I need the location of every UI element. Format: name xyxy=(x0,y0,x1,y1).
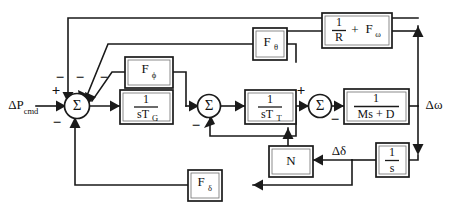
block-f-delta-box xyxy=(188,170,222,201)
summing-junction-3[interactable]: Σ xyxy=(309,95,332,118)
block-inertia-denominator: Ms + D xyxy=(358,107,395,121)
block-integrator-denominator: s xyxy=(390,161,395,175)
arrowhead-n-into-sum3 xyxy=(283,128,294,139)
block-droop-f-subscript: ω xyxy=(375,29,381,39)
arrowhead-into-sum3 xyxy=(299,101,309,112)
arrowhead-omega-down xyxy=(413,144,424,155)
wire-fdelta-to-sum1 xyxy=(75,120,188,185)
sum-1-minus-top-right: − xyxy=(100,69,109,85)
block-diagram-svg: 1 R + F ω F θ F ϕ 1 sT G xyxy=(0,0,466,211)
arrowhead-into-n xyxy=(313,155,323,166)
block-n[interactable]: N xyxy=(269,146,313,177)
block-turbine-denominator-subscript: T xyxy=(276,113,282,123)
block-f-delta-symbol: F xyxy=(197,174,204,189)
sum-3-minus-bottom: − xyxy=(331,111,340,127)
block-inertia-numerator: 1 xyxy=(373,91,379,105)
block-droop-f-symbol: F xyxy=(365,21,372,36)
wire-ftheta-out-stub xyxy=(287,44,296,62)
block-f-delta[interactable]: F δ xyxy=(188,170,222,201)
sum-3-symbol: Σ xyxy=(316,97,325,113)
block-governor-numerator: 1 xyxy=(143,92,149,106)
arrowhead-into-inertia xyxy=(334,101,344,112)
output-label-delta-delta: Δδ xyxy=(332,143,347,158)
sum-1-symbol: Σ xyxy=(73,97,82,113)
block-droop[interactable]: 1 R + F ω xyxy=(322,13,392,48)
summing-junction-1[interactable]: Σ xyxy=(65,94,90,119)
block-turbine-denominator: sT xyxy=(261,107,274,121)
block-turbine-numerator: 1 xyxy=(267,92,273,106)
block-turbine[interactable]: 1 sT T xyxy=(245,90,296,124)
block-f-phi[interactable]: F ϕ xyxy=(125,57,173,88)
block-governor[interactable]: 1 sT G xyxy=(120,90,173,124)
block-droop-plus-operator: + xyxy=(351,22,358,37)
block-droop-denominator: R xyxy=(335,30,343,44)
block-diagram-canvas: 1 R + F ω F θ F ϕ 1 sT G xyxy=(0,0,466,211)
block-f-delta-subscript: δ xyxy=(208,183,212,193)
block-droop-numerator: 1 xyxy=(336,15,342,29)
block-f-theta-subscript: θ xyxy=(274,42,278,52)
input-label-pcmd: ΔP xyxy=(8,97,24,112)
sum-2-minus-bottom: − xyxy=(192,117,201,133)
arrowhead-into-fdelta xyxy=(253,180,263,191)
wire-fphi-to-governor-node xyxy=(173,72,186,106)
block-f-phi-box xyxy=(125,57,173,88)
block-governor-denominator: sT xyxy=(137,107,150,121)
arrowhead-into-governor xyxy=(110,101,120,112)
output-label-delta-omega: Δω xyxy=(426,97,443,112)
sum-2-symbol: Σ xyxy=(205,97,214,113)
sum-1-minus-top-mid: − xyxy=(76,69,85,85)
block-f-theta-symbol: F xyxy=(263,34,270,49)
sum-3-plus-sign: + xyxy=(297,82,306,98)
block-n-symbol: N xyxy=(286,153,296,168)
sum-1-minus-top-left: − xyxy=(56,69,65,85)
block-f-phi-symbol: F xyxy=(141,61,148,76)
arrowhead-into-turbine xyxy=(235,101,245,112)
block-f-phi-subscript: ϕ xyxy=(152,70,157,80)
block-integrator-numerator: 1 xyxy=(389,145,395,159)
block-inertia[interactable]: 1 Ms + D xyxy=(344,89,409,124)
wire-omega-to-integrator xyxy=(409,155,418,160)
input-label-pcmd-subscript: cmd xyxy=(24,106,39,116)
summing-junction-2[interactable]: Σ xyxy=(198,95,221,118)
sum-1-minus-bottom: − xyxy=(53,114,62,130)
block-integrator[interactable]: 1 s xyxy=(376,143,409,177)
block-governor-denominator-subscript: G xyxy=(152,113,158,123)
block-f-theta[interactable]: F θ xyxy=(253,28,287,60)
